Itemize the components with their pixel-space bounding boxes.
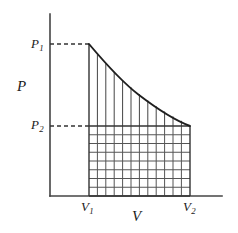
pressure-axis-label: P xyxy=(17,79,26,94)
v1-subscript: 1 xyxy=(89,206,93,216)
v2-symbol: V xyxy=(183,199,191,214)
grid-block-area xyxy=(89,126,190,196)
p2-subscript: 2 xyxy=(39,124,43,134)
p1-subscript: 1 xyxy=(39,43,43,53)
v2-subscript: 2 xyxy=(191,206,195,216)
v2-tick-label: V2 xyxy=(183,200,195,213)
p2-tick-label: P2 xyxy=(31,118,43,131)
pv-diagram-figure: P V P1 P2 V1 V2 xyxy=(0,0,238,233)
p1-symbol: P xyxy=(31,36,39,51)
p2-symbol: P xyxy=(31,117,39,132)
volume-axis-label: V xyxy=(132,209,141,224)
v1-tick-label: V1 xyxy=(81,200,93,213)
v1-symbol: V xyxy=(81,199,89,214)
p1-tick-label: P1 xyxy=(31,37,43,50)
